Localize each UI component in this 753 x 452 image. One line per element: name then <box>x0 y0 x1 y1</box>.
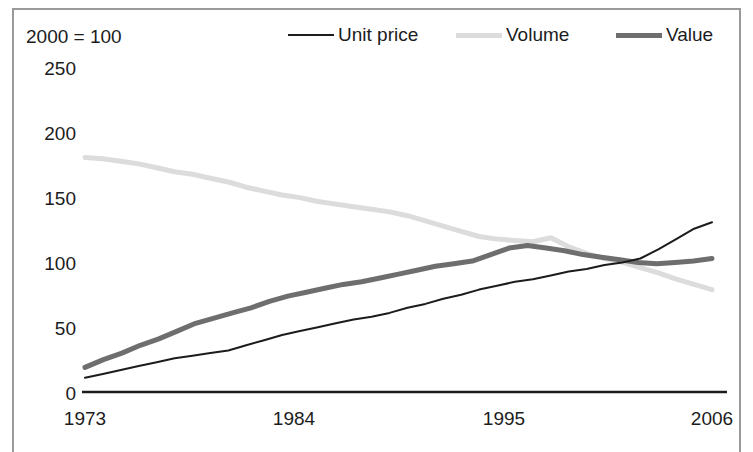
series-line-volume <box>85 157 712 289</box>
plot-area <box>0 0 753 452</box>
series-line-unit-price <box>85 222 712 378</box>
index-line-chart: 2000 = 100 Unit price Volume Value 250 2… <box>0 0 753 452</box>
